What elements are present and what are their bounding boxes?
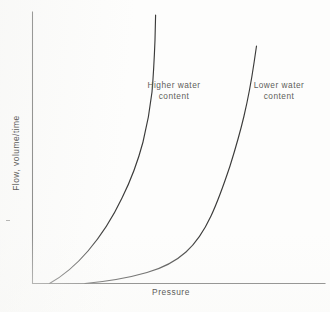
annotation-higher-line-1: Higher water — [141, 80, 207, 91]
margin-tick-mark — [6, 220, 10, 221]
curve-higher-water-content — [50, 15, 156, 284]
caption-clip-region: Fig. 3.11 Flow–pressure behaviour at two… — [0, 303, 330, 312]
annotation-lower-line-2: content — [248, 91, 310, 102]
y-axis-label: Flow, volume/time — [11, 96, 22, 210]
figure-container: Flow, volume/time Pressure Higher water … — [0, 0, 330, 312]
annotation-lower-water-content: Lower water content — [248, 80, 310, 102]
x-axis-label: Pressure — [152, 287, 190, 298]
annotation-lower-line-1: Lower water — [248, 80, 310, 91]
annotation-higher-water-content: Higher water content — [141, 80, 207, 102]
plot-canvas — [0, 0, 330, 312]
annotation-higher-line-2: content — [141, 91, 207, 102]
